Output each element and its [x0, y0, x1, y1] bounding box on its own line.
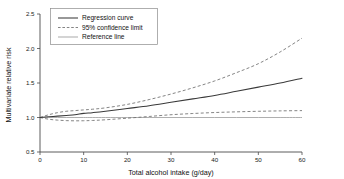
- x-tick-label: 30: [168, 156, 175, 163]
- axes-group: [40, 14, 302, 152]
- x-tick-label: 20: [124, 156, 131, 163]
- y-tick-label: 1.0: [26, 114, 35, 121]
- series-95-confidence-limit-lower: [40, 111, 302, 121]
- y-tick-label: 2.0: [26, 45, 35, 52]
- chart-canvas: 0.51.01.52.02.5 0102030405060 Total alco…: [0, 0, 344, 179]
- relative-risk-chart-figure: 0.51.01.52.02.5 0102030405060 Total alco…: [0, 0, 344, 179]
- x-tick-label: 60: [299, 156, 306, 163]
- series-regression-curve: [40, 78, 302, 117]
- x-axis-ticks: 0102030405060: [38, 152, 306, 163]
- y-tick-label: 0.5: [26, 148, 35, 155]
- x-tick-label: 0: [38, 156, 42, 163]
- series-95-confidence-limit-upper: [40, 38, 302, 117]
- y-axis-ticks: 0.51.01.52.02.5: [26, 10, 40, 155]
- x-axis-title: Total alcohol intake (g/day): [128, 168, 214, 177]
- legend-label-2: Reference line: [82, 33, 125, 40]
- x-tick-label: 40: [211, 156, 218, 163]
- data-series-group: [40, 38, 302, 121]
- x-tick-label: 10: [80, 156, 87, 163]
- y-tick-label: 2.5: [26, 10, 35, 17]
- legend-label-1: 95% confidence limit: [82, 24, 143, 31]
- x-tick-label: 50: [255, 156, 262, 163]
- legend-label-0: Regression curve: [82, 14, 134, 22]
- y-axis-title: Multivariate relative risk: [4, 47, 13, 122]
- y-tick-label: 1.5: [26, 79, 35, 86]
- legend-entries: Regression curve95% confidence limitRefe…: [58, 14, 143, 40]
- chart-legend: Regression curve95% confidence limitRefe…: [51, 9, 158, 45]
